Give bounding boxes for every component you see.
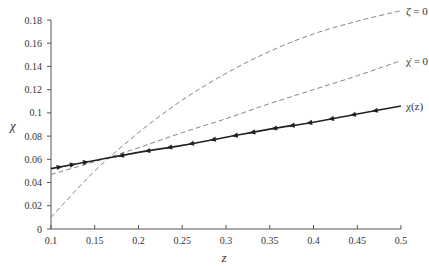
y-tick-label: 0.14 — [25, 61, 43, 72]
curve-label-2: χ(z) — [405, 100, 423, 113]
curve-labels: ζ̇ = 0χ̇ = 0χ(z) — [405, 5, 429, 113]
y-tick-label: 0.06 — [25, 154, 43, 165]
y-tick-label: 0.08 — [25, 131, 43, 142]
x-tick-label: 0.2 — [132, 235, 145, 246]
x-tick-label: 0.35 — [261, 235, 279, 246]
x-tick-label: 0.4 — [307, 235, 320, 246]
x-tick-label: 0.5 — [395, 235, 408, 246]
series-line-0 — [51, 11, 401, 218]
axes: 0.10.150.20.250.30.350.40.450.500.020.04… — [25, 15, 408, 247]
chart-canvas: 0.10.150.20.250.30.350.40.450.500.020.04… — [0, 0, 429, 270]
y-axis-title: χ — [8, 118, 16, 133]
y-tick-label: 0.16 — [25, 38, 43, 49]
series-line-1 — [51, 61, 401, 175]
y-tick-label: 0 — [37, 224, 42, 235]
y-tick-label: 0.02 — [25, 200, 43, 211]
x-tick-label: 0.15 — [86, 235, 104, 246]
series-line-2 — [51, 106, 401, 169]
y-tick-label: 0.18 — [25, 15, 43, 26]
phase-diagram-chart: 0.10.150.20.250.30.350.40.450.500.020.04… — [0, 0, 429, 270]
y-tick-label: 0.1 — [30, 107, 43, 118]
x-tick-label: 0.1 — [45, 235, 58, 246]
curve-label-0: ζ̇ = 0 — [406, 5, 428, 18]
x-tick-label: 0.25 — [174, 235, 192, 246]
x-tick-label: 0.3 — [220, 235, 233, 246]
x-tick-label: 0.45 — [349, 235, 367, 246]
curves — [51, 11, 401, 218]
curve-label-1: χ̇ = 0 — [405, 55, 429, 67]
y-tick-label: 0.12 — [25, 84, 43, 95]
y-tick-label: 0.04 — [25, 177, 43, 188]
x-axis-title: z — [220, 250, 226, 265]
